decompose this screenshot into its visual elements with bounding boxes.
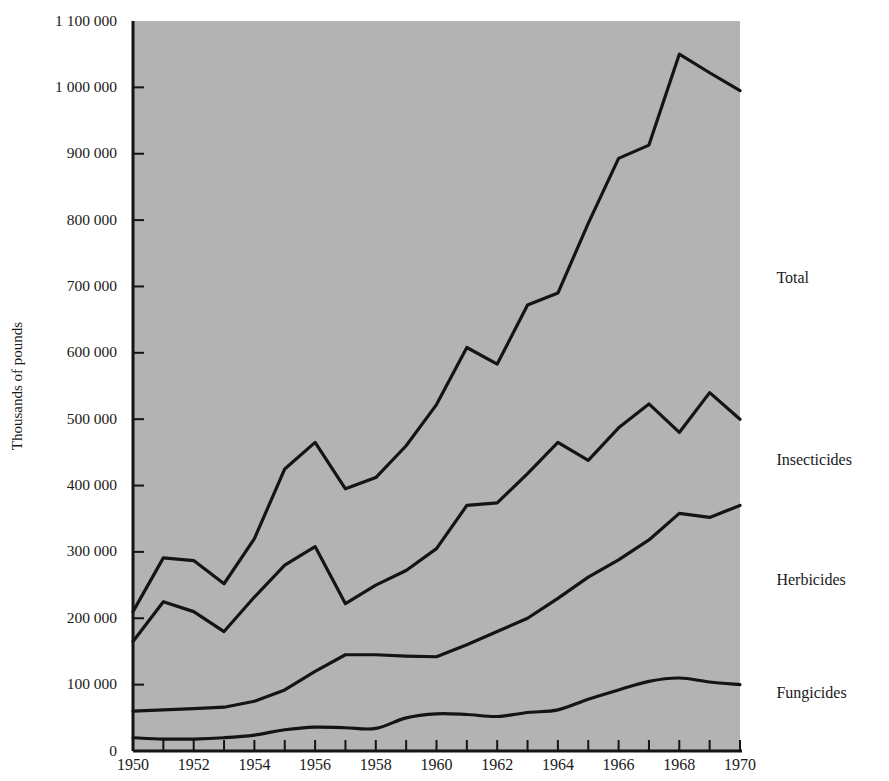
pesticide-usage-chart: 0100 000200 000300 000400 000500 000600 …: [0, 0, 889, 781]
x-tick-label: 1952: [178, 756, 210, 773]
plot-area-background: [133, 21, 740, 751]
x-tick-label: 1954: [238, 756, 270, 773]
x-tick-label: 1964: [542, 756, 574, 773]
y-tick-label: 700 000: [67, 277, 118, 294]
y-tick-label: 100 000: [67, 675, 118, 692]
y-tick-label: 300 000: [67, 542, 118, 559]
x-tick-label: 1958: [360, 756, 392, 773]
y-tick-label: 200 000: [67, 609, 118, 626]
x-tick-label: 1970: [724, 756, 756, 773]
y-axis-title: Thousands of pounds: [9, 322, 25, 450]
y-tick-label: 600 000: [67, 343, 118, 360]
y-tick-label: 1 100 000: [55, 12, 117, 29]
chart-canvas: 0100 000200 000300 000400 000500 000600 …: [0, 0, 889, 781]
x-tick-label: 1968: [663, 756, 695, 773]
y-tick-label: 400 000: [67, 476, 118, 493]
series-label-total: Total: [776, 269, 809, 286]
y-tick-label: 900 000: [67, 144, 118, 161]
x-tick-label: 1962: [481, 756, 513, 773]
x-tick-label: 1950: [117, 756, 149, 773]
series-label-fungicides: Fungicides: [776, 684, 846, 702]
series-label-insecticides: Insecticides: [776, 451, 852, 468]
x-tick-label: 1956: [299, 756, 331, 773]
y-tick-label: 500 000: [67, 410, 118, 427]
series-label-herbicides: Herbicides: [776, 571, 845, 588]
y-tick-label: 1 000 000: [55, 78, 117, 95]
x-tick-label: 1960: [421, 756, 453, 773]
y-tick-label: 800 000: [67, 211, 118, 228]
x-tick-label: 1966: [603, 756, 635, 773]
